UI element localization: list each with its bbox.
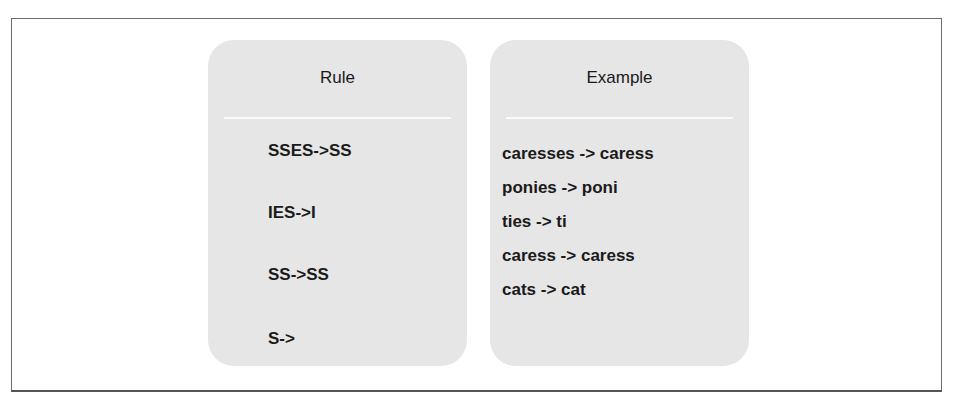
example-item: ponies -> poni	[502, 178, 618, 198]
figure-frame	[11, 18, 942, 392]
example-panel-title: Example	[490, 68, 749, 88]
example-item: ties -> ti	[502, 212, 567, 232]
example-item: caress -> caress	[502, 246, 635, 266]
example-panel: Example caresses -> caress ponies -> pon…	[490, 40, 749, 366]
rule-item: SSES->SS	[268, 141, 352, 161]
example-panel-divider	[506, 117, 733, 119]
rule-panel: Rule SSES->SS IES->I SS->SS S->	[208, 40, 467, 366]
rule-item: S->	[268, 329, 295, 349]
rule-panel-title: Rule	[208, 68, 467, 88]
rule-panel-divider	[224, 117, 451, 119]
rule-item: SS->SS	[268, 265, 329, 285]
example-item: caresses -> caress	[502, 144, 654, 164]
rule-item: IES->I	[268, 203, 316, 223]
example-item: cats -> cat	[502, 280, 586, 300]
